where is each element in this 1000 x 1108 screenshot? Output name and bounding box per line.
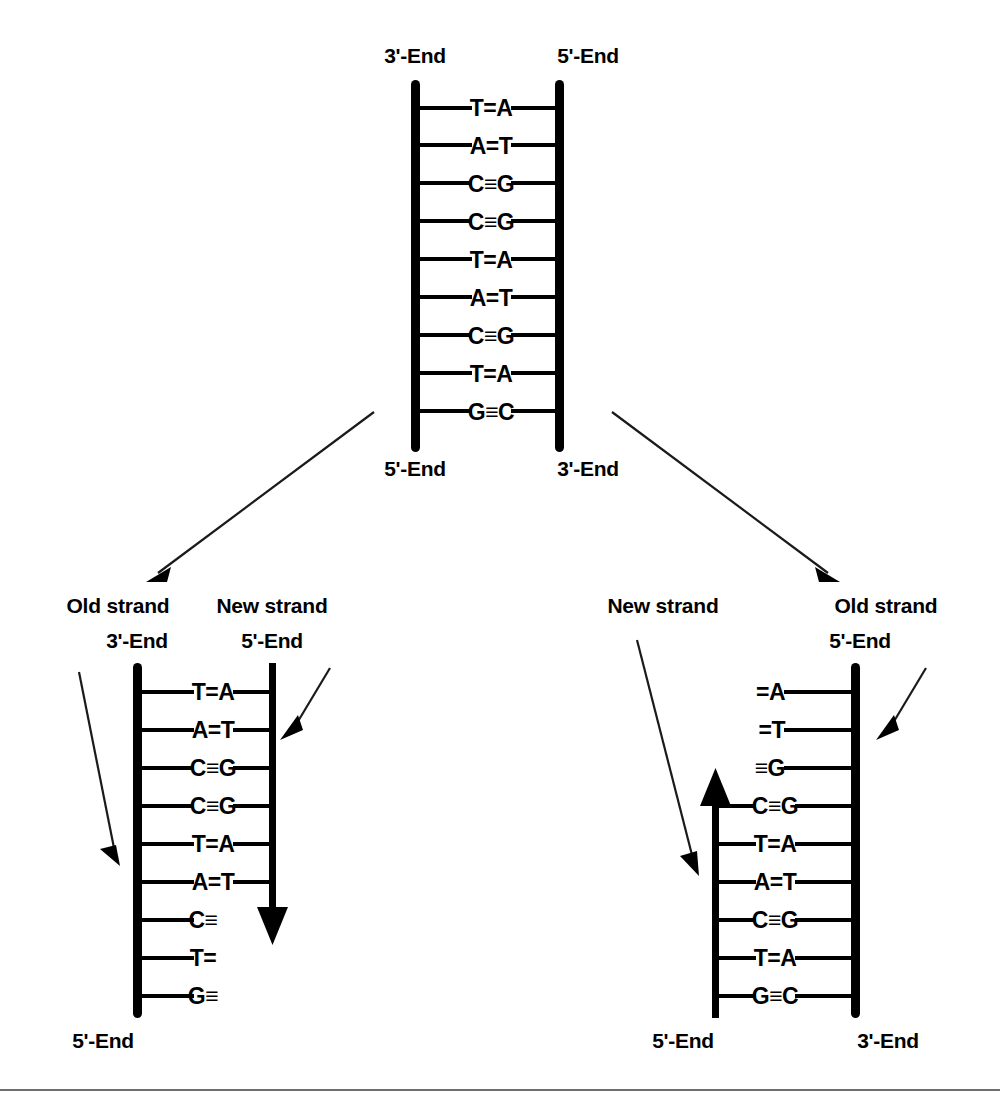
daughter-molecule-left: Old strand 3'-End New strand 5'-End <box>66 594 330 1052</box>
dna-replication-figure: 3'-End 5'-End <box>0 0 1000 1108</box>
right-old-strand-pointer <box>876 668 926 740</box>
base-pair: C≡G <box>468 323 514 349</box>
left-new-strand-label: New strand <box>216 594 327 617</box>
left-old-strand-pointer <box>79 672 120 866</box>
base-pair: T=A <box>754 831 797 857</box>
left-base-pair-labels: T=A A=T C≡G C≡G T=A A=T C≡ T= G≡ <box>188 679 236 1009</box>
figure-canvas: 3'-End 5'-End <box>0 0 1000 1108</box>
parent-left-rail <box>411 80 420 452</box>
replication-divergence-arrow-right <box>612 412 840 582</box>
base-pair: G≡C <box>752 983 798 1009</box>
base-pair: T=A <box>470 95 513 121</box>
base-pair: A=T <box>470 133 513 159</box>
right-bottom-right-end-label: 3'-End <box>857 1029 919 1052</box>
base-pair: =A <box>756 679 785 705</box>
daughter-molecule-right: New strand Old strand 5'-End <box>607 594 937 1052</box>
base-pair: C≡ <box>188 907 217 933</box>
new-strand-direction-arrow-down-icon <box>257 907 288 945</box>
base-pair: T=A <box>192 831 235 857</box>
base-pair: T=A <box>754 945 797 971</box>
base-pair: T=A <box>470 361 513 387</box>
left-old-strand-label: Old strand <box>66 594 169 617</box>
right-old-strand-rail <box>851 663 860 1018</box>
parent-base-pair-labels: T=A A=T C≡G C≡G T=A A=T C≡G T=A G≡C <box>468 95 514 425</box>
left-top-left-end-label: 3'-End <box>106 629 168 652</box>
base-pair: T=A <box>192 679 235 705</box>
left-top-right-end-label: 5'-End <box>241 629 303 652</box>
arrow-head-old-strand-left-icon <box>100 845 120 866</box>
right-new-strand-label: New strand <box>607 594 718 617</box>
arrow-head-new-strand-right-icon <box>680 851 699 876</box>
base-pair: A=T <box>192 717 235 743</box>
right-new-strand-pointer <box>637 640 699 876</box>
parent-bottom-left-end-label: 5'-End <box>384 457 446 480</box>
base-pair: ≡G <box>755 755 785 781</box>
base-pair: A=T <box>192 869 235 895</box>
left-new-strand-pointer <box>280 668 330 740</box>
base-pair: C≡G <box>190 793 236 819</box>
parent-bottom-right-end-label: 3'-End <box>557 457 619 480</box>
base-pair: T=A <box>470 247 513 273</box>
right-top-right-end-label: 5'-End <box>829 629 891 652</box>
parent-top-left-end-label: 3'-End <box>384 44 446 67</box>
parent-right-rail <box>555 80 564 452</box>
left-old-strand-rail <box>133 663 142 1018</box>
base-pair: =T <box>759 717 786 743</box>
base-pair: T= <box>190 945 217 971</box>
base-pair: C≡G <box>468 171 514 197</box>
base-pair: G≡ <box>188 983 218 1009</box>
parent-top-right-end-label: 5'-End <box>557 44 619 67</box>
base-pair: G≡C <box>468 399 514 425</box>
replication-divergence-arrow-left <box>146 412 374 582</box>
base-pair: A=T <box>754 869 797 895</box>
arrow-head-left-icon <box>146 567 171 582</box>
base-pair: C≡G <box>752 907 798 933</box>
base-pair: C≡G <box>752 793 798 819</box>
base-pair: C≡G <box>190 755 236 781</box>
right-old-strand-label: Old strand <box>834 594 937 617</box>
base-pair: C≡G <box>468 209 514 235</box>
new-strand-direction-arrow-up-icon <box>700 768 731 806</box>
arrow-head-right-icon <box>815 567 840 582</box>
footer-divider <box>0 1089 1000 1091</box>
base-pair: A=T <box>470 285 513 311</box>
left-bottom-end-label: 5'-End <box>72 1029 134 1052</box>
right-bottom-left-end-label: 5'-End <box>652 1029 714 1052</box>
parent-dna-molecule: 3'-End 5'-End <box>384 44 619 480</box>
